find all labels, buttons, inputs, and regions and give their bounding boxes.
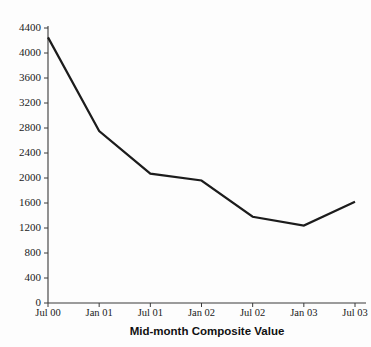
y-tick-label: 4400	[19, 21, 42, 33]
x-tick-label: Jul 02	[240, 307, 265, 318]
y-tick-label: 4000	[19, 46, 42, 58]
y-tick-label: 400	[25, 271, 42, 283]
x-tick-label: Jan 02	[188, 307, 215, 318]
x-tick-label: Jan 03	[290, 307, 317, 318]
chart-canvas: 0400800120016002000240028003200360040004…	[0, 0, 371, 347]
x-axis-ticks: Jul 00Jan 01Jul 01Jan 02Jul 02Jan 03Jul …	[35, 303, 367, 318]
line-chart: 0400800120016002000240028003200360040004…	[0, 0, 371, 347]
y-tick-label: 2800	[19, 121, 42, 133]
y-axis-ticks: 0400800120016002000240028003200360040004…	[19, 21, 48, 308]
y-tick-label: 1600	[19, 196, 42, 208]
x-axis-title: Mid-month Composite Value	[130, 325, 285, 337]
x-tick-label: Jul 01	[138, 307, 163, 318]
y-tick-label: 800	[25, 246, 42, 258]
y-tick-label: 2400	[19, 146, 42, 158]
data-series-line	[48, 37, 355, 225]
x-tick-label: Jul 00	[35, 307, 60, 318]
x-tick-label: Jan 01	[86, 307, 113, 318]
y-tick-label: 2000	[19, 171, 42, 183]
y-tick-label: 1200	[19, 221, 42, 233]
x-tick-label: Jul 03	[342, 307, 367, 318]
y-tick-label: 3600	[19, 71, 42, 83]
y-tick-label: 3200	[19, 96, 42, 108]
axes-group	[48, 26, 366, 303]
